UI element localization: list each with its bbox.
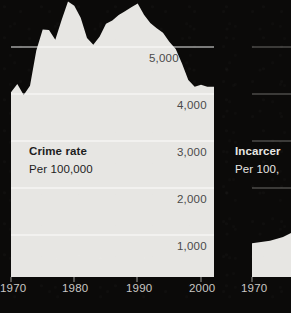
ytick-label-1000: 1,000 (177, 241, 207, 253)
incarceration-panel: Incarcer Per 100, 1970 (221, 0, 291, 313)
xtick-label-1970-incar: 1970 (241, 283, 267, 295)
incarceration-series-subtitle: Per 100, (235, 164, 279, 176)
xtick-label-1980: 1980 (62, 283, 88, 295)
ytick-label-2000: 2,000 (177, 194, 207, 206)
figure-canvas: 5,000 4,000 3,000 2,000 1,000 Crime rate… (0, 0, 291, 313)
ytick-label-4000: 4,000 (177, 100, 207, 112)
xtick-label-2000: 2000 (189, 283, 215, 295)
xtick-label-1970: 1970 (0, 283, 26, 295)
incarceration-area-path (252, 233, 291, 277)
ytick-label-5000: 5,000 (149, 53, 179, 65)
crime-rate-series-title: Crime rate (29, 146, 87, 158)
ytick-label-3000: 3,000 (177, 147, 207, 159)
incarceration-series-title: Incarcer (235, 146, 281, 158)
crime-rate-series-subtitle: Per 100,000 (29, 164, 93, 176)
crime-rate-xtick-marks (11, 277, 201, 282)
crime-rate-area-path (11, 2, 214, 278)
xtick-label-1990: 1990 (126, 283, 152, 295)
crime-rate-panel: 5,000 4,000 3,000 2,000 1,000 Crime rate… (0, 0, 221, 313)
